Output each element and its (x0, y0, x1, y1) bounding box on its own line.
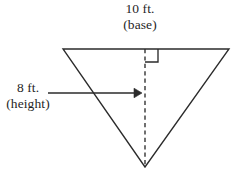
height-pointer-arrow-icon (48, 88, 142, 98)
base-value-text: 10 ft. (96, 1, 184, 17)
height-name-text: (height) (0, 96, 57, 112)
right-angle-marker-icon (145, 49, 158, 62)
geometry-figure: 10 ft. (base) 8 ft. (height) (0, 0, 236, 180)
base-name-text: (base) (96, 17, 184, 33)
height-label: 8 ft. (height) (0, 80, 57, 112)
triangle-shape (63, 49, 229, 167)
height-value-text: 8 ft. (0, 80, 57, 96)
base-label: 10 ft. (base) (96, 1, 184, 33)
